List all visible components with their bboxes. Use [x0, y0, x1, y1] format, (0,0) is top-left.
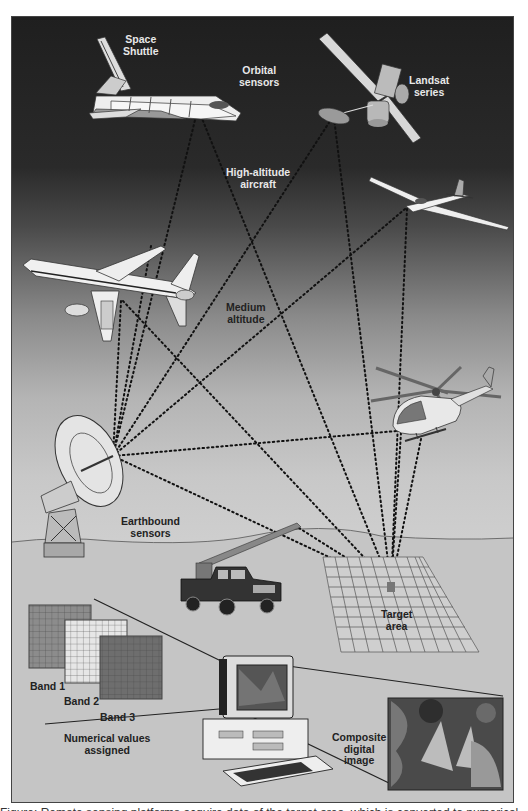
helicopter-icon: [371, 367, 501, 441]
label-high-altitude-aircraft: High-altitudeaircraft: [226, 167, 290, 190]
label-band-3: Band 3: [100, 712, 135, 724]
label-medium-altitude: Mediumaltitude: [226, 302, 266, 325]
label-band-2: Band 2: [64, 696, 99, 708]
label-landsat-series: Landsatseries: [409, 75, 449, 98]
label-numerical-values: Numerical valuesassigned: [64, 733, 150, 756]
label-orbital-sensors: Orbitalsensors: [239, 65, 279, 88]
diagram-illustration: [12, 17, 513, 802]
label-composite-digital-image: Compositedigitalimage: [332, 732, 386, 767]
label-target-area: Targetarea: [381, 609, 412, 632]
figure-caption: Figure: Remote sensing platforms acquire…: [0, 803, 528, 811]
diagram-frame: SpaceShuttle Orbitalsensors Landsatserie…: [11, 16, 514, 803]
composite-image-thumbnail: [388, 698, 503, 790]
space-shuttle-icon: [89, 37, 241, 121]
label-earthbound-sensors: Earthboundsensors: [121, 516, 180, 539]
airliner-icon: [23, 246, 199, 341]
label-space-shuttle: SpaceShuttle: [123, 34, 159, 57]
landsat-satellite-icon: [317, 33, 421, 143]
label-band-1: Band 1: [30, 681, 65, 693]
